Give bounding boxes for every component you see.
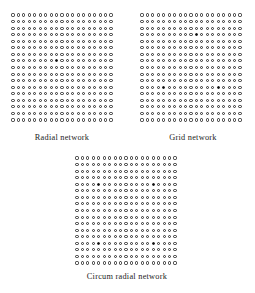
network-node <box>228 99 231 102</box>
network-node <box>157 99 160 102</box>
network-node <box>168 216 171 219</box>
network-node <box>50 112 53 115</box>
network-node <box>97 222 100 225</box>
network-node <box>206 92 209 95</box>
network-node <box>81 156 84 159</box>
network-node <box>157 248 160 251</box>
network-node <box>140 66 143 69</box>
network-node <box>119 216 122 219</box>
network-node <box>152 261 155 264</box>
network-node <box>206 112 209 115</box>
network-node <box>168 255 171 258</box>
network-node <box>130 163 133 166</box>
network-node <box>140 73 143 76</box>
network-node <box>168 66 171 69</box>
network-node <box>146 20 149 23</box>
network-node <box>66 73 69 76</box>
network-node <box>114 209 117 212</box>
network-node <box>179 40 182 43</box>
network-node <box>119 176 122 179</box>
network-node <box>173 261 176 264</box>
network-node <box>168 33 171 36</box>
network-node <box>146 183 149 186</box>
network-node <box>141 209 144 212</box>
network-node <box>222 105 225 108</box>
network-node <box>130 242 133 245</box>
network-node <box>146 222 149 225</box>
network-node <box>81 170 84 173</box>
caption-circum-radial-network: Circum radial network <box>65 272 189 282</box>
network-node <box>71 46 74 49</box>
network-node <box>44 73 47 76</box>
network-node <box>108 229 111 232</box>
network-node <box>71 59 74 62</box>
network-node <box>92 216 95 219</box>
network-node <box>81 176 84 179</box>
network-node <box>11 40 14 43</box>
network-node <box>97 163 100 166</box>
network-node <box>28 53 31 56</box>
network-node <box>206 40 209 43</box>
network-node <box>97 209 100 212</box>
network-node <box>222 27 225 30</box>
network-node <box>86 202 89 205</box>
network-node <box>82 13 85 16</box>
network-node <box>17 13 20 16</box>
network-node <box>109 99 112 102</box>
network-node <box>97 176 100 179</box>
network-node <box>71 112 74 115</box>
network-node <box>11 66 14 69</box>
network-node <box>86 255 89 258</box>
network-node <box>157 27 160 30</box>
network-node <box>151 40 154 43</box>
network-node <box>81 261 84 264</box>
network-node <box>88 20 91 23</box>
network-node <box>200 33 203 36</box>
network-node <box>124 261 127 264</box>
network-node <box>152 235 155 238</box>
network-node <box>119 248 122 251</box>
network-node <box>217 46 220 49</box>
network-node <box>168 105 171 108</box>
network-node <box>66 118 69 121</box>
network-node <box>162 46 165 49</box>
network-node <box>50 73 53 76</box>
network-node <box>140 86 143 89</box>
network-node <box>104 105 107 108</box>
network-node <box>189 53 192 56</box>
network-node <box>168 242 171 245</box>
network-node <box>124 255 127 258</box>
network-node <box>33 53 36 56</box>
network-node <box>179 86 182 89</box>
network-node <box>206 66 209 69</box>
network-node <box>114 255 117 258</box>
network-node <box>103 202 106 205</box>
network-node <box>179 59 182 62</box>
network-node <box>146 176 149 179</box>
network-node <box>104 40 107 43</box>
network-node <box>141 248 144 251</box>
network-node <box>119 163 122 166</box>
network-node <box>77 92 80 95</box>
network-node <box>114 156 117 159</box>
network-node <box>140 112 143 115</box>
network-node <box>109 86 112 89</box>
network-node <box>124 156 127 159</box>
network-node <box>173 170 176 173</box>
network-node <box>75 183 78 186</box>
network-node <box>146 86 149 89</box>
network-node <box>50 66 53 69</box>
network-node <box>163 170 166 173</box>
network-node <box>135 183 138 186</box>
network-node <box>151 27 154 30</box>
network-node <box>233 86 236 89</box>
network-node <box>71 40 74 43</box>
network-node <box>206 86 209 89</box>
network-node <box>233 46 236 49</box>
network-node <box>88 86 91 89</box>
network-node <box>33 33 36 36</box>
network-node <box>99 27 102 30</box>
network-node <box>71 79 74 82</box>
network-node <box>11 105 14 108</box>
network-node <box>109 20 112 23</box>
